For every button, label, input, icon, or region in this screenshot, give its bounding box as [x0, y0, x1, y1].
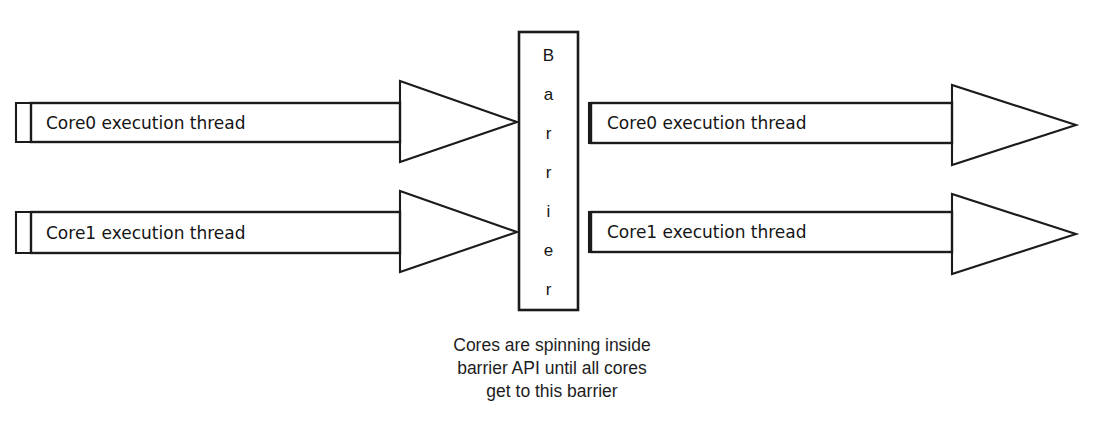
barrier-letter-3: r [546, 163, 552, 182]
core1-pre-barrier-arrow: Core1 execution thread [16, 191, 517, 272]
barrier-block: B a r r i e r [519, 32, 578, 310]
barrier-caption-line-2: barrier API until all cores [457, 358, 647, 378]
barrier-letter-0: B [543, 46, 554, 65]
core0-pre-barrier-arrow: Core0 execution thread [16, 81, 517, 162]
barrier-diagram: Core0 execution thread Core1 execution t… [0, 0, 1106, 422]
core1-post-barrier-arrow: Core1 execution thread [589, 194, 1076, 274]
barrier-letter-1: a [544, 85, 554, 104]
core0-pre-barrier-label: Core0 execution thread [46, 113, 246, 133]
barrier-letter-4: i [547, 202, 551, 221]
core0-post-barrier-label: Core0 execution thread [607, 113, 807, 133]
barrier-letter-5: e [544, 241, 553, 260]
barrier-caption-line-3: get to this barrier [486, 381, 617, 401]
barrier-letter-2: r [546, 124, 552, 143]
diagram-canvas: Core0 execution thread Core1 execution t… [0, 0, 1106, 422]
barrier-caption: Cores are spinning inside barrier API un… [453, 335, 650, 401]
core1-post-barrier-label: Core1 execution thread [607, 222, 807, 242]
barrier-caption-line-1: Cores are spinning inside [453, 335, 650, 355]
barrier-letter-6: r [546, 280, 552, 299]
core0-post-barrier-arrow: Core0 execution thread [589, 85, 1076, 165]
core1-pre-barrier-label: Core1 execution thread [46, 223, 246, 243]
